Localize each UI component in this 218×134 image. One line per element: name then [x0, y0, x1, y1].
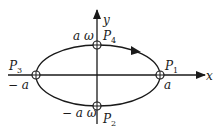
point-marker-p1: [156, 71, 164, 79]
ellipse-diagram: x y P1 P2 P3 P4 a − a ω − a a ω: [0, 0, 218, 134]
p1-label: P1: [164, 59, 178, 75]
point-marker-p3: [32, 71, 40, 79]
x-axis-label: x: [206, 69, 213, 83]
p3-label: P3: [8, 59, 22, 75]
p4-label: P4: [102, 29, 116, 45]
p1-value-label: a: [164, 78, 171, 92]
direction-arrow-icon: [131, 46, 141, 55]
p4-value-label: a ω: [73, 29, 94, 43]
y-axis-label: y: [102, 13, 110, 27]
point-marker-p4: [93, 41, 101, 49]
p2-value-label: − a ω: [62, 106, 97, 120]
p3-value-label: − a: [8, 78, 29, 92]
p2-label: P2: [102, 112, 116, 128]
